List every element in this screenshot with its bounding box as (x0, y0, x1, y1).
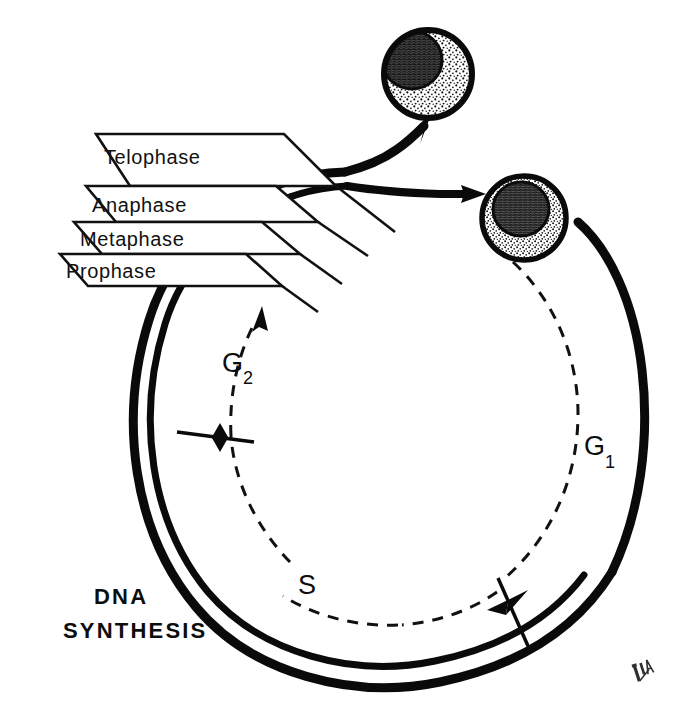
dashed-arc-s-bottom (283, 596, 398, 625)
boundary-bowtie-g1-s-right (506, 590, 528, 615)
diagram-canvas: Telophase Anaphase Metaphase Prophase (0, 0, 691, 721)
boundary-bowtie-g1-s-left (487, 600, 508, 615)
callout-telophase-label: Telophase (104, 146, 201, 168)
dashed-arc-s-right (402, 592, 497, 625)
cell-cycle-diagram: Telophase Anaphase Metaphase Prophase (0, 0, 691, 721)
dashed-arc-g2-head (252, 306, 268, 332)
interphase-dashed-ring (231, 262, 578, 625)
cell-right-nucleus (493, 182, 549, 236)
callout-metaphase-leader (300, 254, 342, 284)
g2-label-group: G 2 (222, 348, 253, 388)
phase-callout-boxes: Telophase Anaphase Metaphase Prophase (60, 134, 395, 312)
callout-prophase-leader (282, 286, 318, 312)
exit-arrow-to-top-cell (345, 126, 424, 172)
g1-label-group: G 1 (584, 431, 615, 472)
cell-top-nucleus (382, 31, 442, 89)
s-label: S (298, 570, 316, 600)
mitosis-exit-arrows (345, 112, 486, 203)
dashed-arc-s-left (231, 436, 290, 562)
callout-anaphase-label: Anaphase (92, 194, 187, 216)
exit-arrow-to-right-cell-head (461, 185, 486, 203)
boundary-marker-s-g2 (177, 423, 254, 452)
callout-prophase-label: Prophase (66, 260, 156, 282)
callout-metaphase-label: Metaphase (80, 228, 184, 250)
boundary-bowtie-s-g2-lower (212, 438, 228, 452)
caption-line-1: DNA (94, 584, 148, 609)
g2-label-subscript: 2 (243, 368, 253, 388)
exit-arrow-to-right-cell (347, 186, 468, 194)
daughter-cell-top (382, 30, 472, 118)
caption-line-2: SYNTHESIS (63, 618, 208, 643)
callout-prophase[interactable]: Prophase (60, 254, 318, 312)
g1-label-subscript: 1 (605, 452, 615, 472)
artist-signature: ARR (632, 656, 664, 682)
boundary-bowtie-s-g2-upper (212, 423, 228, 437)
dashed-arc-g1 (505, 262, 578, 578)
g1-arc (578, 222, 645, 572)
daughter-cell-right (482, 176, 566, 260)
callout-anaphase-leader (318, 222, 368, 256)
g1-label: G (584, 431, 605, 461)
g2-label: G (222, 348, 243, 378)
